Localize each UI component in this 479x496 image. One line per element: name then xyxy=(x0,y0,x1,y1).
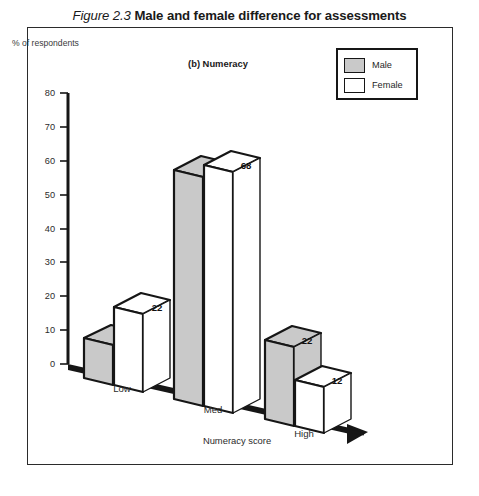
y-tick-20: 20 xyxy=(45,291,55,301)
y-axis: 80 70 60 50 40 30 20 10 0 xyxy=(45,88,68,369)
x-category-med: Med xyxy=(204,404,223,415)
legend-swatch-male xyxy=(344,58,365,73)
legend-item-male: Male xyxy=(344,55,416,75)
y-tick-80: 80 xyxy=(45,88,55,98)
value-label-high-male: 22 xyxy=(302,335,313,346)
y-tick-60: 60 xyxy=(45,156,55,166)
figure-root: Figure 2.3 Male and female difference fo… xyxy=(0,0,479,496)
value-label-med-female: 68 xyxy=(241,160,252,171)
y-tick-50: 50 xyxy=(45,190,55,200)
legend-item-female: Female xyxy=(344,75,416,95)
legend: Male Female xyxy=(336,48,418,100)
y-tick-30: 30 xyxy=(45,257,55,267)
y-tick-0: 0 xyxy=(50,359,55,369)
bar-high-female xyxy=(295,366,351,433)
legend-swatch-female xyxy=(344,78,365,93)
bar-med-female xyxy=(204,151,260,413)
legend-label-male: Male xyxy=(372,60,392,70)
x-category-low: Low xyxy=(113,383,131,394)
x-category-high: High xyxy=(294,428,314,439)
y-tick-10: 10 xyxy=(45,325,55,335)
legend-label-female: Female xyxy=(372,80,403,90)
y-tick-70: 70 xyxy=(45,122,55,132)
value-label-low-female: 22 xyxy=(152,302,163,313)
value-label-high-female: 12 xyxy=(332,375,343,386)
y-tick-40: 40 xyxy=(45,224,55,234)
x-axis-title: Numeracy score xyxy=(203,435,271,446)
